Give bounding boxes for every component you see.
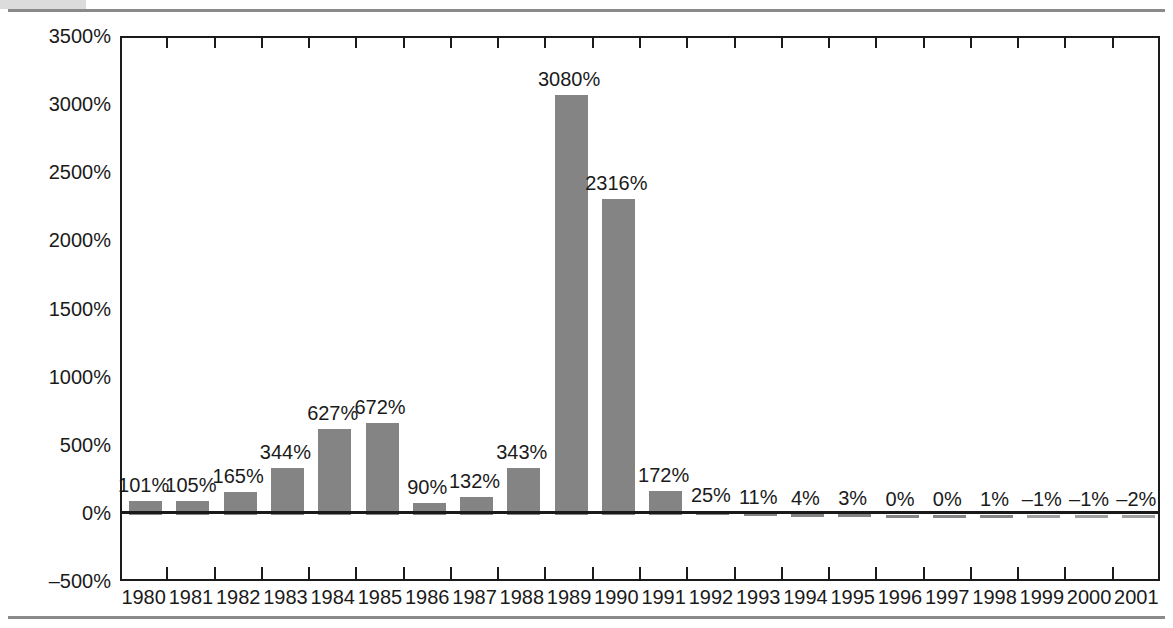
top-axis-tick: [686, 36, 688, 48]
y-axis-tick-label: 2000%: [0, 230, 111, 250]
top-axis-tick: [781, 36, 783, 48]
bar[interactable]: [555, 95, 588, 515]
chart-page: Consumer price inflation in Argentina 35…: [0, 0, 1173, 628]
top-divider-rule: [8, 9, 1165, 12]
bottom-axis-tick: [1064, 567, 1066, 580]
bottom-axis-tick: [403, 567, 405, 580]
bar[interactable]: [838, 514, 871, 517]
bar[interactable]: [366, 423, 399, 515]
y-axis-tick-label: 0%: [0, 503, 111, 523]
top-axis-tick: [403, 36, 405, 48]
top-axis-tick: [544, 36, 546, 48]
bottom-axis-tick: [1112, 567, 1114, 580]
top-axis-tick: [166, 36, 168, 48]
bottom-axis-tick: [308, 567, 310, 580]
top-axis-tick: [970, 36, 972, 48]
top-gray-band: [0, 0, 86, 9]
y-axis-tick-label: 2500%: [0, 162, 111, 182]
top-axis-tick: [1064, 36, 1066, 48]
bar-value-label: 172%: [628, 465, 699, 485]
bar[interactable]: [1122, 515, 1155, 518]
bar-value-label: 343%: [486, 442, 557, 462]
y-axis-tick-label: 3500%: [0, 26, 111, 46]
top-axis-tick: [450, 36, 452, 48]
top-axis-tick: [214, 36, 216, 48]
bar[interactable]: [271, 468, 304, 515]
bottom-axis-tick: [261, 567, 263, 580]
bottom-axis-tick: [450, 567, 452, 580]
bottom-axis-tick: [734, 567, 736, 580]
bottom-axis-tick: [875, 567, 877, 580]
top-axis-tick: [497, 36, 499, 48]
bottom-axis-tick: [592, 567, 594, 580]
bottom-axis-tick: [639, 567, 641, 580]
bottom-axis-tick: [166, 567, 168, 580]
bottom-axis-tick: [970, 567, 972, 580]
bottom-axis-tick: [214, 567, 216, 580]
bar[interactable]: [1075, 515, 1108, 518]
bar-value-label: 2316%: [581, 173, 652, 193]
bar[interactable]: [980, 515, 1013, 518]
top-axis-tick: [355, 36, 357, 48]
top-axis-tick: [1017, 36, 1019, 48]
bottom-axis-tick: [828, 567, 830, 580]
bottom-axis-tick: [923, 567, 925, 580]
top-axis-tick: [875, 36, 877, 48]
bar[interactable]: [318, 429, 351, 514]
bottom-axis-tick: [497, 567, 499, 580]
bar-value-label: 344%: [250, 442, 321, 462]
top-axis-tick: [923, 36, 925, 48]
bar-value-label: –2%: [1101, 489, 1172, 509]
top-axis-tick: [639, 36, 641, 48]
top-axis-tick: [828, 36, 830, 48]
y-axis-tick-label: 3000%: [0, 94, 111, 114]
y-axis-tick-label: 1500%: [0, 299, 111, 319]
bar-value-label: 3080%: [533, 69, 604, 89]
bottom-axis-tick: [1017, 567, 1019, 580]
bar[interactable]: [1027, 515, 1060, 518]
top-axis-tick: [1112, 36, 1114, 48]
zero-baseline: [120, 511, 1160, 514]
y-axis-tick-label: 500%: [0, 435, 111, 455]
x-axis-tick-label: 2001: [1106, 586, 1167, 608]
bottom-axis-tick: [686, 567, 688, 580]
top-axis-tick: [592, 36, 594, 48]
bottom-divider-rule: [8, 616, 1165, 619]
bar[interactable]: [507, 468, 540, 515]
y-axis-tick-label: –500%: [0, 571, 111, 591]
bar[interactable]: [933, 515, 966, 518]
bottom-axis-tick: [544, 567, 546, 580]
top-axis-tick: [261, 36, 263, 48]
y-axis-tick-label: 1000%: [0, 367, 111, 387]
top-axis-tick: [308, 36, 310, 48]
bar[interactable]: [886, 515, 919, 518]
bar-value-label: 672%: [344, 397, 415, 417]
bottom-axis-tick: [355, 567, 357, 580]
bar-value-label: 165%: [203, 466, 274, 486]
bar-value-label: 132%: [439, 471, 510, 491]
top-axis-tick: [734, 36, 736, 48]
bottom-axis-tick: [781, 567, 783, 580]
bar[interactable]: [791, 514, 824, 517]
